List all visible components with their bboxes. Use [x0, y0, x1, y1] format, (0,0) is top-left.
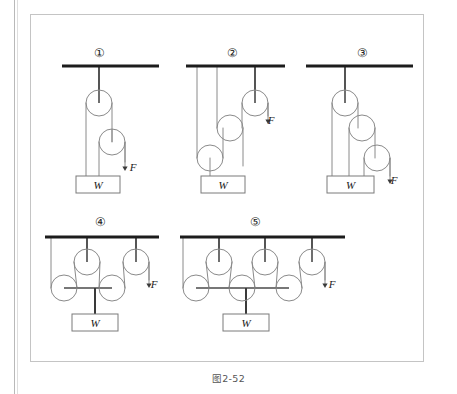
- load-label: W: [241, 317, 251, 329]
- diagram-5: WF⑤: [180, 215, 345, 331]
- diagram-4: WF④: [45, 215, 159, 331]
- diagram-3-number-label: ③: [357, 46, 368, 60]
- diagram-4-number-label: ④: [95, 215, 106, 229]
- effort-label: F: [390, 174, 398, 186]
- pulley-movable-pulley-1: [349, 115, 375, 141]
- diagram-1-number-label: ①: [94, 46, 105, 60]
- effort-label: F: [129, 161, 137, 173]
- effort-label: F: [267, 114, 275, 126]
- load-label: W: [93, 179, 103, 191]
- diagram-2: WF②: [186, 46, 285, 193]
- pulley-movable-pulley-2: [364, 145, 390, 171]
- load-label: W: [346, 179, 356, 191]
- effort-label: F: [328, 278, 336, 290]
- pulley-diagrams-artwork: WF①WF②WF③WF④WF⑤: [0, 0, 457, 394]
- diagram-2-number-label: ②: [227, 46, 238, 60]
- figure-caption: 图2-52: [0, 371, 457, 385]
- effort-arrow-head: [322, 283, 327, 288]
- diagram-3: WF③: [306, 46, 413, 193]
- load-label: W: [218, 179, 228, 191]
- load-label: W: [90, 317, 100, 329]
- diagram-1: WF①: [62, 46, 159, 193]
- figure-page: WF①WF②WF③WF④WF⑤ 图2-52: [0, 0, 457, 394]
- diagram-5-number-label: ⑤: [250, 215, 261, 229]
- pulley-movable-pulley-1: [217, 115, 243, 141]
- effort-arrow-head: [122, 166, 127, 171]
- effort-label: F: [150, 278, 158, 290]
